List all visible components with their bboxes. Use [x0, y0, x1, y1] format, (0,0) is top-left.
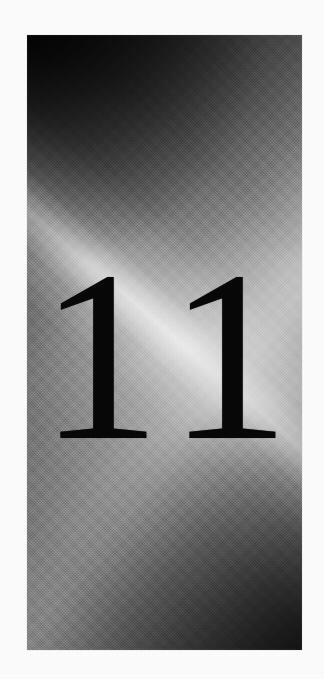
- book-page: 11: [0, 0, 324, 679]
- chapter-number: 11: [27, 267, 302, 445]
- gradient-photo-plate: 11: [27, 35, 302, 650]
